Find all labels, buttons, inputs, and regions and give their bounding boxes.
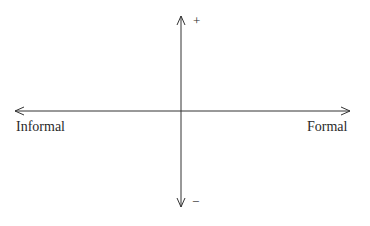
minus-label: − [192, 195, 199, 208]
axes-diagram [0, 0, 370, 226]
horizontal-axis [15, 107, 350, 115]
informal-label: Informal [16, 120, 65, 134]
formal-label: Formal [307, 120, 347, 134]
plus-label: + [193, 14, 200, 27]
